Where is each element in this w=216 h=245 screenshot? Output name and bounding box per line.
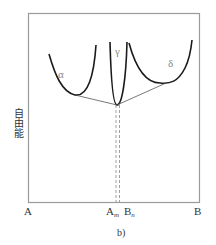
delta-label: δ (168, 57, 173, 69)
figure-caption: b) (117, 227, 125, 239)
plot-frame (29, 14, 200, 203)
gamma-label: γ (114, 45, 120, 57)
alpha-label: α (58, 68, 64, 80)
alpha-curve (49, 45, 96, 95)
x-label-b: B (194, 205, 201, 217)
free-energy-diagram: α γ δ 自由能 A Am Bn B b) (0, 0, 216, 245)
x-label-bn: Bn (124, 205, 135, 219)
x-label-a: A (24, 205, 32, 217)
delta-curve (129, 40, 192, 83)
y-axis-label: 自由能 (13, 107, 24, 139)
x-label-am: Am (106, 205, 119, 219)
alpha-gamma-tangent (75, 95, 117, 105)
